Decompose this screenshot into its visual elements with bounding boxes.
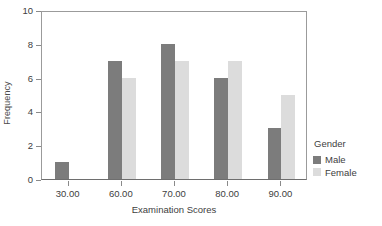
bar-female-60.00 — [122, 78, 136, 179]
bars-layer — [42, 12, 306, 179]
bar-male-70.00 — [161, 44, 175, 179]
grouped-bar-chart: Frequency 0246810 30.0060.0070.0080.0090… — [0, 0, 382, 226]
x-axis-tick — [227, 181, 228, 186]
bar-female-90.00 — [281, 95, 295, 180]
y-axis-tick-label: 10 — [0, 6, 33, 16]
legend-items: MaleFemale — [313, 155, 379, 177]
x-axis-tick — [280, 181, 281, 186]
bar-female-70.00 — [175, 61, 189, 179]
y-axis-tick — [36, 180, 41, 181]
legend: Gender MaleFemale — [313, 138, 379, 180]
y-axis-tick-label: 4 — [0, 107, 33, 117]
bar-male-60.00 — [108, 61, 122, 179]
y-axis-tick-label: 6 — [0, 74, 33, 84]
y-axis-tick-label: 0 — [0, 175, 33, 185]
legend-item-label: Male — [325, 155, 346, 165]
x-axis-tick-label: 70.00 — [144, 189, 204, 199]
x-axis-tick — [68, 181, 69, 186]
y-axis-tick-label: 2 — [0, 141, 33, 151]
bar-male-80.00 — [214, 78, 228, 179]
legend-item-label: Female — [325, 168, 357, 178]
x-axis-tick — [121, 181, 122, 186]
bar-male-30.00 — [55, 162, 69, 179]
x-axis-tick-label: 90.00 — [250, 189, 310, 199]
legend-item-female: Female — [313, 168, 379, 178]
y-axis-tick-label: 8 — [0, 40, 33, 50]
y-axis-title: Frequency — [2, 58, 12, 148]
x-axis-tick — [174, 181, 175, 186]
x-axis-tick-label: 30.00 — [38, 189, 98, 199]
bar-male-90.00 — [268, 128, 282, 179]
legend-swatch-icon — [313, 156, 321, 164]
x-axis-tick-label: 80.00 — [197, 189, 257, 199]
legend-title: Gender — [313, 138, 379, 149]
bar-female-80.00 — [228, 61, 242, 179]
plot-area — [41, 11, 307, 180]
legend-item-male: Male — [313, 155, 379, 165]
x-axis-title: Examination Scores — [41, 204, 307, 215]
x-axis-tick-label: 60.00 — [91, 189, 151, 199]
legend-swatch-icon — [313, 168, 321, 176]
